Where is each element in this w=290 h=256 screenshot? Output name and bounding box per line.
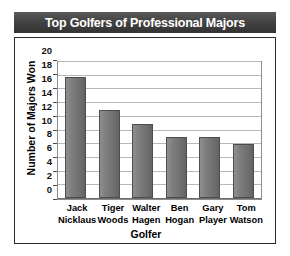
bar	[166, 137, 187, 198]
x-axis-tick-label-line: Walter	[130, 203, 163, 215]
y-axis-tick-label: 4	[47, 156, 52, 167]
chart-title-bar: Top Golfers of Professional Majors	[14, 12, 276, 33]
bar-slot	[126, 63, 160, 198]
axis-baseline	[58, 198, 261, 199]
x-axis-tick-label: WalterHagen	[130, 203, 163, 226]
gridline	[58, 61, 261, 62]
x-axis-tick-labels: JackNicklausTigerWoodsWalterHagenBenHoga…	[58, 203, 263, 226]
x-axis-tick-label-line: Player	[196, 215, 229, 227]
x-axis-tick-label: GaryPlayer	[196, 203, 229, 226]
chart-frame: Number of Majors Won 02468101214161820 J…	[14, 37, 276, 244]
x-axis-tick-label-line: Ben	[163, 203, 196, 215]
x-axis-tick-label: TomWatson	[230, 203, 263, 226]
bar	[99, 110, 120, 198]
bar-series	[59, 63, 260, 198]
bar	[199, 137, 220, 198]
bar-slot	[227, 63, 261, 198]
y-axis-tick-label: 18	[41, 58, 52, 69]
y-axis-tick-label: 2	[47, 170, 52, 181]
y-axis-tick-label: 20	[41, 45, 52, 56]
x-axis-title: Golfer	[15, 228, 277, 240]
y-axis-tick-mark	[53, 199, 57, 200]
x-axis-tick-label-line: Jack	[58, 203, 96, 215]
y-axis-tick-mark	[53, 185, 57, 186]
y-axis-tick-label: 14	[41, 86, 52, 97]
y-axis-tick-label: 8	[47, 128, 52, 139]
y-axis-tick-label: 16	[41, 72, 52, 83]
bar-slot	[193, 63, 227, 198]
y-axis-tick-label: 12	[41, 100, 52, 111]
bar	[132, 124, 153, 198]
x-axis-tick-label-line: Watson	[230, 215, 263, 227]
x-axis-tick-label-line: Nicklaus	[58, 215, 96, 227]
y-axis-tick-mark	[53, 102, 57, 103]
x-axis-tick-label-line: Hogan	[163, 215, 196, 227]
y-axis-tick-mark	[53, 74, 57, 75]
y-axis-tick-label: 10	[41, 114, 52, 125]
bar	[65, 77, 86, 199]
y-axis-tick-mark	[53, 60, 57, 61]
y-axis-title: Number of Majors Won	[25, 58, 37, 178]
x-axis-tick-label-line: Tom	[230, 203, 263, 215]
bar-slot	[59, 63, 93, 198]
y-axis-tick-mark	[53, 143, 57, 144]
y-axis-tick-mark	[53, 171, 57, 172]
x-axis-tick-label: JackNicklaus	[58, 203, 96, 226]
x-axis-tick-label: TigerWoods	[96, 203, 129, 226]
y-axis-tick-label: 0	[47, 184, 52, 195]
y-axis-tick-mark	[53, 88, 57, 89]
bar-slot	[160, 63, 194, 198]
bar	[233, 144, 254, 198]
x-axis-tick-label-line: Hagen	[130, 215, 163, 227]
y-axis-tick-label: 6	[47, 142, 52, 153]
plot-area	[57, 61, 262, 200]
x-axis-tick-label-line: Gary	[196, 203, 229, 215]
y-axis-tick-mark	[53, 116, 57, 117]
plot-wrapper: 02468101214161820	[57, 61, 262, 200]
y-axis-tick-mark	[53, 157, 57, 158]
chart-title: Top Golfers of Professional Majors	[45, 16, 245, 30]
y-axis-tick-mark	[53, 130, 57, 131]
x-axis-tick-label-line: Tiger	[96, 203, 129, 215]
bar-slot	[93, 63, 127, 198]
chart-figure: Top Golfers of Professional Majors Numbe…	[14, 12, 276, 244]
x-axis-tick-label-line: Woods	[96, 215, 129, 227]
x-axis-tick-label: BenHogan	[163, 203, 196, 226]
